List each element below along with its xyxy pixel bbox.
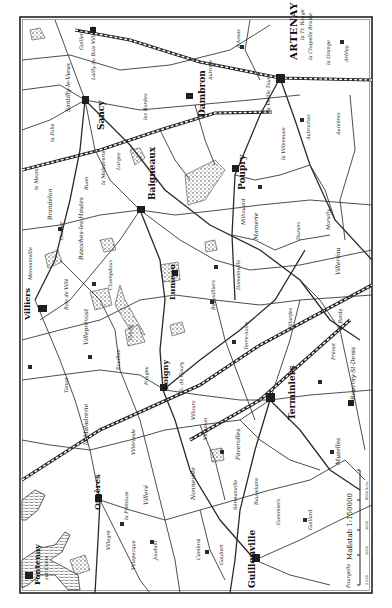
place-label: Villéronde <box>130 429 136 455</box>
place-label: Villeréau <box>334 247 341 275</box>
place-label: Milhouard <box>240 199 246 226</box>
place-label: Ouslier <box>58 221 64 240</box>
place-label: Lailly du Bois Villiers <box>90 26 97 81</box>
place-label: Mennainville <box>27 247 33 281</box>
place-label: Fontenay <box>32 544 42 585</box>
place-label: Sancy <box>96 100 106 130</box>
place-label: Duranx <box>295 221 301 241</box>
place-label: Champdoux <box>107 260 114 290</box>
scale-tick-label: 5000 <box>365 521 369 530</box>
place-label: Villours <box>190 400 196 420</box>
place-label: Nonneville <box>189 467 196 501</box>
place-label: Guillonville <box>247 529 257 588</box>
place-label: la Tr. Rouge <box>299 9 306 40</box>
place-label: Bauvelaire <box>253 478 259 506</box>
place-label: Ch. de Goury <box>178 361 185 395</box>
place-label: Brandelon <box>46 188 53 221</box>
place-label: Villeré <box>142 485 149 505</box>
scale-tick-label: 8000 Schr. <box>365 481 369 500</box>
place-label: Gaillard <box>307 510 313 530</box>
place-label: les Bordes <box>142 93 148 120</box>
place-label: Gaillard <box>78 30 84 50</box>
place-label: la Borde <box>337 309 343 330</box>
scale-ratio: Maßstab 1:150000 <box>346 493 354 560</box>
place-label: Mamerie <box>252 212 259 241</box>
place-label: Gaubert <box>218 543 224 565</box>
place-label: Tanon <box>63 378 69 393</box>
place-label: Baigneaux <box>147 146 157 200</box>
place-label: sur Conie <box>43 556 49 580</box>
place-label: Autroches <box>305 114 311 141</box>
place-label: Terminiers <box>287 365 297 420</box>
place-label: Bazoches-les-Hautes <box>77 197 84 261</box>
place-label: la Fréteuse <box>123 491 129 520</box>
place-label: ARTENAY <box>288 2 299 61</box>
place-label: la Grange <box>325 40 332 65</box>
place-label: la Chapelle Brulée <box>307 13 314 60</box>
place-label: Arblay <box>343 45 350 63</box>
place-label: Villegré <box>105 530 112 550</box>
place-label: d'Assas <box>235 29 241 48</box>
scale-tick-label: 2000 <box>365 546 369 555</box>
place-label: Morvilly <box>325 209 332 231</box>
place-label: Aunières <box>335 112 341 136</box>
place-label: Lumeau <box>167 264 177 300</box>
place-label: Poupry <box>237 154 247 190</box>
place-label: Ecuillon <box>115 349 121 371</box>
place-label: la Maladrerie <box>100 151 106 185</box>
place-label: la Folie <box>49 123 55 142</box>
place-label: Loigny <box>160 360 170 390</box>
place-label: la Villeneuve <box>280 127 286 160</box>
place-label: Faverolles <box>234 429 241 461</box>
place-label: Gommiers <box>275 499 281 525</box>
place-label: Muzelles <box>334 438 341 466</box>
place-label: Sérmanville <box>232 480 238 510</box>
place-label: Fougeu <box>143 366 150 386</box>
place-label: Fillardes <box>287 307 293 331</box>
place-label: Pourgelle <box>345 564 352 589</box>
place-label: Santilly-le-Vieux <box>64 62 72 112</box>
place-label: Villepecque <box>130 540 137 570</box>
place-label: Joudain <box>152 541 159 561</box>
place-label: Lorges <box>115 152 122 171</box>
place-label: Villepion <box>202 418 209 440</box>
place-label: la Maladrerie <box>82 403 89 445</box>
place-label: le Mesnil <box>33 166 39 190</box>
scale-tick-label: 5 000 <box>365 575 369 585</box>
place-label: Terre-noire <box>243 321 249 350</box>
place-label: Bois de Villé <box>63 278 69 311</box>
place-label: Ruan <box>83 177 89 191</box>
place-label: Orgères <box>92 474 102 510</box>
place-label: Villeprévost <box>82 308 90 345</box>
place-label: Dambron <box>197 70 207 117</box>
place-label: Domainville <box>235 260 241 291</box>
place-label: Beauvilliers <box>210 280 216 311</box>
place-label: la Vieille Tour <box>265 76 271 112</box>
map-canvas: ARTENAYla Tr. Rougela Chapelle Bruléela … <box>0 0 392 608</box>
place-label: Cambrai <box>195 538 201 560</box>
place-label: Autroye <box>207 60 214 81</box>
place-label: Prénat <box>330 342 336 361</box>
place-label: Goury <box>127 324 134 340</box>
place-label: Villiers <box>22 287 32 321</box>
place-label: Rouvray-St-Denis <box>349 347 357 401</box>
